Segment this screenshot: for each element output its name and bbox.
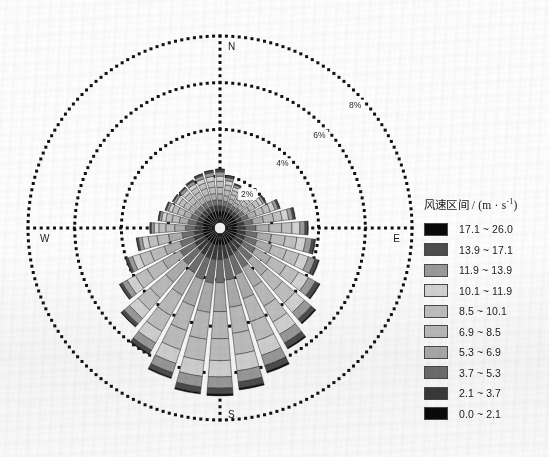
legend-item: 3.7 ~ 5.3 [424,363,549,384]
petal-segment [262,213,274,223]
legend-title-tail: ) [513,199,517,211]
petal-segment [307,221,308,235]
petal-segment [232,330,254,355]
legend-item: 0.0 ~ 2.1 [424,404,549,425]
figure-canvas: NSWE2%4%6%8% 风速区间 / (m · s-1) 17.1 ~ 26.… [0,0,549,457]
radial-tick-label: 8% [349,100,362,110]
petal-segment [218,206,222,211]
petal-segment [292,222,300,235]
petal-segment [154,223,159,233]
compass-label-south: S [228,409,235,420]
petal-segment [218,200,222,206]
petal-segment [215,170,224,173]
petal-segment [215,169,224,170]
legend-label: 3.7 ~ 5.3 [459,367,501,379]
compass-label-north: N [228,41,235,52]
legend-swatch [424,387,448,400]
legend-label: 17.1 ~ 26.0 [459,223,513,235]
petal-segment [184,336,207,361]
legend: 风速区间 / (m · s-1) 17.1 ~ 26.013.9 ~ 17.11… [424,196,549,424]
petal-segment [270,234,286,246]
petal-segment [282,222,292,233]
legend-item: 11.9 ~ 13.9 [424,260,549,281]
legend-swatch [424,325,448,338]
legend-item: 6.9 ~ 8.5 [424,322,549,343]
petal-segment [256,224,269,232]
compass-label-west: W [40,233,50,244]
petal-segment [217,187,223,194]
compass-label-east: E [393,233,400,244]
legend-item: 13.9 ~ 17.1 [424,240,549,261]
legend-item: 5.3 ~ 6.9 [424,342,549,363]
petal-segment [216,181,223,187]
petal-segment [217,194,222,200]
petal-segment [212,200,217,206]
legend-label: 2.1 ~ 3.7 [459,387,501,399]
legend-items: 17.1 ~ 26.013.9 ~ 17.111.9 ~ 13.910.1 ~ … [424,219,549,424]
petal-segment [195,226,203,230]
petal-segment [305,221,308,235]
petal-segment [151,223,154,234]
petal-segment [207,388,233,394]
petal-segment [300,221,305,234]
legend-item: 8.5 ~ 10.1 [424,301,549,322]
legend-item: 10.1 ~ 11.9 [424,281,549,302]
petal-segment [207,377,232,389]
petal-segment [207,394,233,396]
legend-label: 0.0 ~ 2.1 [459,408,501,420]
petal-segment [208,360,231,377]
legend-label: 13.9 ~ 17.1 [459,244,513,256]
legend-title-text: 风速区间 / (m · s [424,199,506,211]
petal-segment [218,245,223,260]
petal-segment [159,223,166,233]
legend-swatch [424,284,448,297]
legend-swatch [424,243,448,256]
legend-swatch [424,346,448,359]
legend-label: 6.9 ~ 8.5 [459,326,501,338]
petal-segment [229,305,248,333]
radial-tick-label: 2% [241,189,254,199]
legend-swatch [424,223,448,236]
radial-tick-label: 4% [276,158,289,168]
legend-swatch [424,407,448,420]
legend-title: 风速区间 / (m · s-1) [424,196,549,212]
petal-segment [269,223,282,233]
petal-segment [216,176,224,181]
petal-segment [245,225,256,231]
legend-label: 5.3 ~ 6.9 [459,346,501,358]
center-hole [215,223,225,233]
petal-segment [213,283,226,312]
legend-swatch [424,305,448,318]
petal-segment [175,224,186,231]
petal-group [119,169,320,396]
petal-segment [157,234,170,245]
petal-segment [222,206,226,211]
petal-segment [185,225,195,230]
petal-segment [211,311,228,338]
petal-segment [179,217,189,224]
petal-segment [216,172,225,176]
radial-tick-label: 6% [313,130,326,140]
petal-segment [216,260,225,283]
petal-segment [166,224,175,233]
legend-item: 2.1 ~ 3.7 [424,383,549,404]
legend-swatch [424,366,448,379]
petal-segment [237,226,245,230]
legend-label: 10.1 ~ 11.9 [459,285,512,297]
legend-label: 8.5 ~ 10.1 [459,305,507,317]
legend-item: 17.1 ~ 26.0 [424,219,549,240]
petal-segment [190,310,210,340]
legend-swatch [424,264,448,277]
legend-label: 11.9 ~ 13.9 [459,264,512,276]
petal-segment [210,338,231,360]
